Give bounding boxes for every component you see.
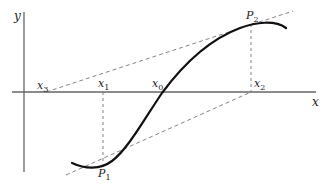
p2-label: P2 bbox=[245, 9, 259, 24]
x3-label: x3 bbox=[37, 79, 48, 94]
y-axis-label: y bbox=[13, 9, 21, 23]
function-curve bbox=[72, 23, 286, 168]
x1-label: x1 bbox=[98, 77, 109, 92]
diagram-canvas: y x x3 x1 x0 x2 P2 P1 bbox=[0, 0, 324, 184]
p1-label: P1 bbox=[97, 167, 111, 182]
x-axis-label: x bbox=[312, 95, 319, 109]
x2-label: x2 bbox=[254, 77, 265, 92]
x0-label: x0 bbox=[152, 77, 163, 92]
lower-secant-line bbox=[66, 92, 251, 175]
